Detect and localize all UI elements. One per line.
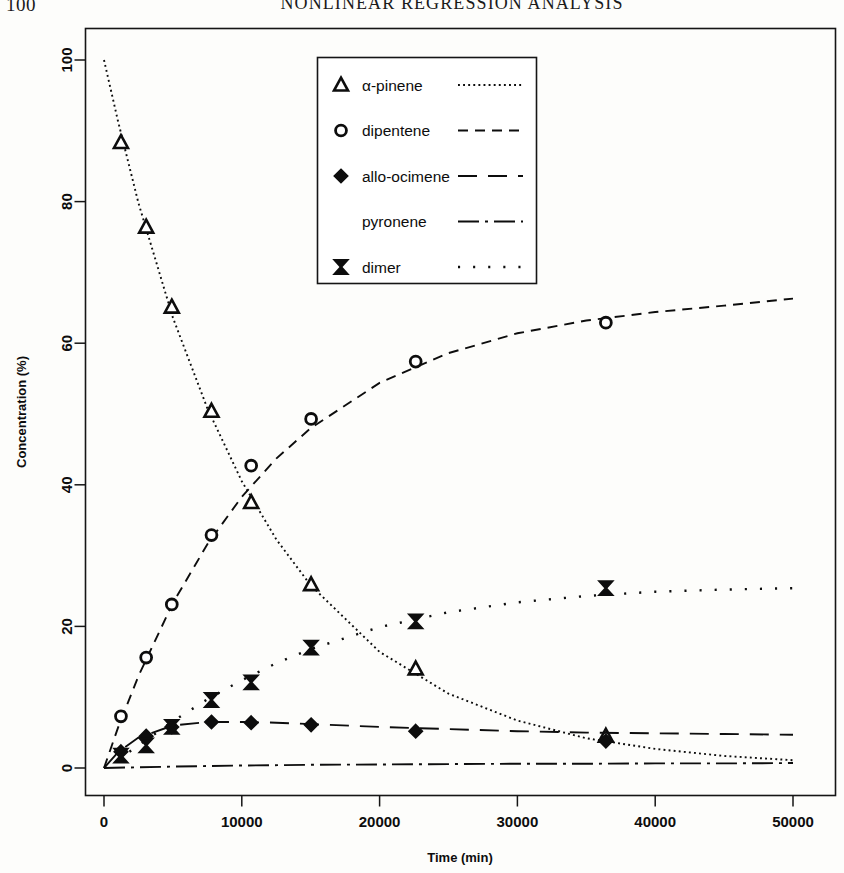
legend-marker-icon: [336, 125, 347, 136]
data-point: [116, 711, 127, 722]
data-point: [600, 317, 611, 328]
chart-figure: 01000020000300004000050000 020406080100 …: [0, 0, 844, 873]
series-allo-ocimene: [104, 715, 793, 768]
y-axis-title: Concentration (%): [14, 356, 29, 468]
x-tick-label: 40000: [634, 813, 676, 830]
data-point: [244, 495, 258, 508]
y-tick-label: 60: [58, 335, 75, 352]
data-point: [166, 599, 177, 610]
fitted-curve: [104, 763, 793, 768]
data-point: [304, 718, 317, 731]
x-axis-ticks: 01000020000300004000050000: [100, 796, 814, 830]
data-point: [206, 530, 217, 541]
data-point: [140, 739, 152, 752]
data-point: [165, 300, 179, 313]
chart-legend: α-pinenedipenteneallo-ocimenepyronenedim…: [318, 58, 537, 284]
legend-label: allo-ocimene: [362, 168, 450, 185]
data-point: [410, 615, 422, 628]
data-point: [141, 652, 152, 663]
x-tick-label: 0: [100, 813, 108, 830]
y-tick-label: 0: [58, 764, 75, 772]
concentration-vs-time-chart: 01000020000300004000050000 020406080100 …: [0, 0, 844, 873]
data-point: [115, 749, 127, 762]
data-point: [409, 724, 422, 737]
data-point: [244, 716, 257, 729]
data-point: [305, 641, 317, 654]
data-point: [114, 135, 128, 148]
legend-label: α-pinene: [362, 77, 423, 94]
x-tick-label: 50000: [772, 813, 814, 830]
data-point: [139, 220, 153, 233]
data-point: [205, 715, 218, 728]
data-point: [245, 676, 257, 689]
legend-label: dimer: [362, 259, 401, 276]
data-point: [409, 662, 423, 675]
data-point: [204, 404, 218, 417]
fitted-curve: [104, 588, 793, 768]
data-point: [306, 414, 317, 425]
y-tick-label: 20: [58, 618, 75, 635]
series-dipentene: [104, 299, 793, 768]
data-point: [600, 581, 612, 594]
y-tick-label: 100: [58, 47, 75, 72]
legend-label: pyronene: [362, 213, 427, 230]
legend-label: dipentene: [362, 122, 430, 139]
data-point: [246, 460, 257, 471]
x-tick-label: 20000: [359, 813, 401, 830]
data-point: [205, 693, 217, 706]
x-tick-label: 30000: [497, 813, 539, 830]
y-tick-label: 40: [58, 476, 75, 493]
data-point: [410, 356, 421, 367]
series-dimer: [104, 581, 793, 768]
fitted-curve: [104, 722, 793, 768]
series-pyronene: [104, 763, 793, 768]
x-axis-title: Time (min): [427, 850, 493, 865]
y-tick-label: 80: [58, 193, 75, 210]
x-tick-label: 10000: [221, 813, 263, 830]
y-axis-ticks: 020406080100: [58, 47, 86, 772]
